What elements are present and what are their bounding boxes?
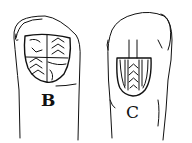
label-b: B bbox=[41, 92, 55, 109]
shield-c bbox=[117, 40, 151, 96]
line-drawing bbox=[0, 0, 192, 143]
label-c: C bbox=[126, 104, 139, 121]
shield-b bbox=[24, 34, 70, 82]
illustration: B C bbox=[0, 0, 192, 143]
